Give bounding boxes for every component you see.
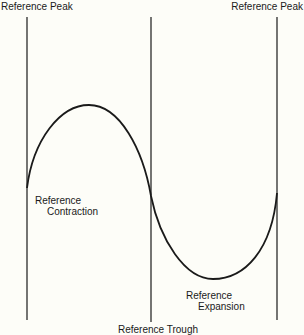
expansion-label-line2: Expansion	[186, 301, 245, 312]
expansion-label-line1: Reference	[186, 290, 232, 301]
reference-peak-right-label: Reference Peak	[231, 1, 303, 12]
contraction-label-line1: Reference	[35, 195, 81, 206]
reference-trough-label: Reference Trough	[118, 324, 198, 335]
reference-contraction-label: Reference Contraction	[35, 195, 98, 217]
reference-expansion-label: Reference Expansion	[186, 290, 245, 312]
cycle-curve	[27, 105, 277, 279]
contraction-label-line2: Contraction	[35, 206, 98, 217]
reference-peak-left-label: Reference Peak	[1, 1, 73, 12]
